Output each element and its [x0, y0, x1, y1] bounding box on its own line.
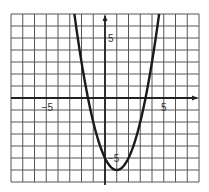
- y-axis-arrow-icon: [103, 15, 108, 21]
- y-tick-label-5: 5: [108, 33, 114, 44]
- x-axis-arrow-icon: [192, 96, 198, 101]
- y-tick-label-neg5: −5: [108, 153, 120, 164]
- x-tick-label-5: 5: [161, 102, 167, 113]
- parabola-graph: −5 5 5 −5: [0, 0, 209, 192]
- x-tick-label-neg5: −5: [42, 102, 54, 113]
